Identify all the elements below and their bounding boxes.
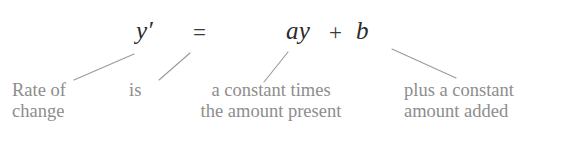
annotation-plus-constant-amount-line1: plus a constant bbox=[404, 80, 554, 101]
annotation-is-line1: is bbox=[129, 80, 141, 101]
annotation-constant-times-amount: a constant times the amount present bbox=[172, 80, 370, 122]
annotation-rate-of-change-line1: Rate of bbox=[12, 80, 66, 101]
annotation-is: is bbox=[129, 80, 141, 101]
connector-line-rate-of-change bbox=[74, 54, 134, 80]
annotation-plus-constant-amount: plus a constant amount added bbox=[404, 80, 554, 122]
annotation-plus-constant-amount-line2: amount added bbox=[404, 101, 554, 122]
connector-line-constant-times bbox=[264, 52, 288, 82]
connector-line-plus-constant bbox=[392, 49, 456, 78]
equation-operator-equals: = bbox=[193, 21, 206, 44]
annotation-rate-of-change-line2: change bbox=[12, 101, 66, 122]
annotation-rate-of-change: Rate of change bbox=[12, 80, 66, 122]
annotation-constant-times-amount-line1: a constant times bbox=[172, 80, 370, 101]
connector-line-is bbox=[159, 53, 190, 80]
annotation-constant-times-amount-line2: the amount present bbox=[172, 101, 370, 122]
equation-term-derivative: y′ bbox=[136, 18, 153, 43]
equation-annotation-figure: y′ = ay + b Rate of change is a constant… bbox=[0, 0, 579, 144]
equation-operator-plus: + bbox=[329, 21, 342, 44]
equation-term-constant: b bbox=[356, 18, 369, 43]
equation-term-rate: ay bbox=[286, 18, 310, 43]
